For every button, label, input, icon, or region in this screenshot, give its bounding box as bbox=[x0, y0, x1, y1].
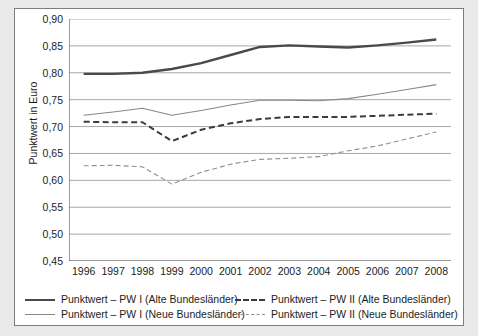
y-tick-label: 0,70 bbox=[31, 121, 63, 132]
y-tick-label: 0,55 bbox=[31, 202, 63, 213]
y-tick-label: 0,85 bbox=[31, 41, 63, 52]
x-tick-label: 2008 bbox=[416, 265, 456, 278]
y-axis-tick-labels: 0,900,850,800,750,700,650,600,550,500,45 bbox=[23, 19, 63, 261]
series-line-0 bbox=[84, 39, 437, 73]
y-tick-label: 0,80 bbox=[31, 68, 63, 79]
y-tick-label: 0,50 bbox=[31, 229, 63, 240]
chart-legend: Punktwert – PW I (Alte Bundesländer)Punk… bbox=[23, 291, 455, 321]
legend-label: Punktwert – PW II (Alte Bundesländer) bbox=[271, 293, 451, 305]
chart-figure: Punktwert in Euro 0,900,850,800,750,700,… bbox=[14, 8, 464, 326]
legend-line-swatch-icon bbox=[25, 294, 55, 304]
legend-line-swatch-icon bbox=[235, 309, 265, 319]
legend-column-right: Punktwert – PW II (Alte Bundesländer)Pun… bbox=[235, 291, 457, 321]
legend-line-swatch-icon bbox=[235, 294, 265, 304]
legend-label: Punktwert – PW I (Neue Bundesländer) bbox=[61, 308, 245, 320]
y-tick-label: 0,60 bbox=[31, 175, 63, 186]
legend-entry: Punktwert – PW I (Alte Bundesländer) bbox=[25, 291, 235, 306]
plot-area bbox=[69, 19, 451, 261]
y-tick-label: 0,75 bbox=[31, 94, 63, 105]
series-line-3 bbox=[84, 132, 437, 184]
legend-entry: Punktwert – PW I (Neue Bundesländer) bbox=[25, 306, 235, 321]
gridlines bbox=[69, 19, 451, 261]
legend-label: Punktwert – PW I (Alte Bundesländer) bbox=[61, 293, 238, 305]
legend-entry: Punktwert – PW II (Alte Bundesländer) bbox=[235, 291, 457, 306]
legend-entry: Punktwert – PW II (Neue Bundesländer) bbox=[235, 306, 457, 321]
chart-plot-svg bbox=[69, 19, 451, 261]
legend-label: Punktwert – PW II (Neue Bundesländer) bbox=[271, 308, 458, 320]
legend-line-swatch-icon bbox=[25, 309, 55, 319]
series-line-2 bbox=[84, 114, 437, 141]
y-tick-label: 0,65 bbox=[31, 148, 63, 159]
x-axis-tick-labels: 1996199719981999200020012002200320042005… bbox=[69, 265, 451, 281]
legend-column-left: Punktwert – PW I (Alte Bundesländer)Punk… bbox=[25, 291, 235, 321]
y-tick-label: 0,90 bbox=[31, 14, 63, 25]
axis-lines bbox=[69, 19, 451, 261]
y-tick-label: 0,45 bbox=[31, 256, 63, 267]
data-series-lines bbox=[84, 39, 437, 184]
